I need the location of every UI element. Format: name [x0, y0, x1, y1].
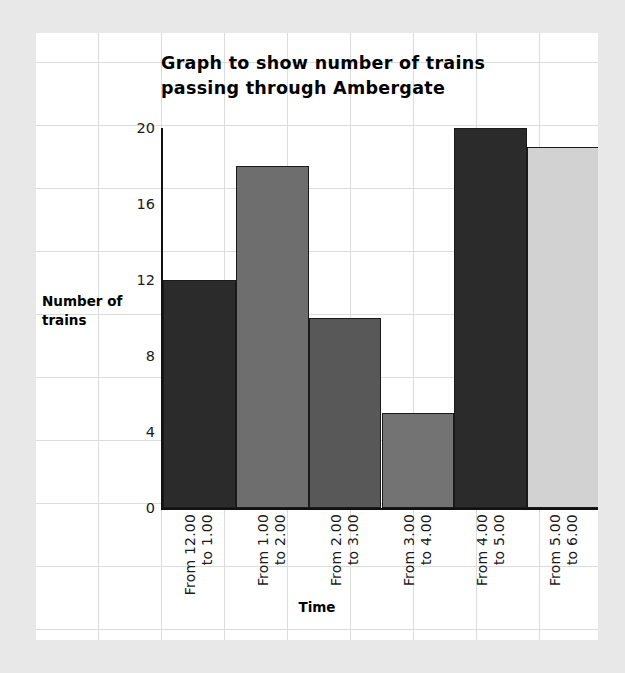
y-axis-label-line-2: trains: [42, 311, 152, 330]
x-tick-label-text: From 5.00 to 6.00: [547, 514, 581, 586]
x-axis-label: Time: [36, 599, 598, 615]
graph-paper-sheet: Graph to show number of trains passing t…: [36, 33, 598, 640]
x-tick-label-text: From 1.00 to 2.00: [255, 514, 289, 586]
x-tick-label: From 1.00 to 2.00: [236, 514, 309, 639]
y-tick-label: 0: [146, 500, 155, 516]
x-tick-label-text: From 2.00 to 3.00: [328, 514, 362, 586]
chart-title-line-1: Graph to show number of trains: [161, 51, 581, 76]
y-tick-label: 20: [137, 120, 155, 136]
x-tick-label: From 3.00 to 4.00: [382, 514, 455, 639]
x-tick-label-text: From 3.00 to 4.00: [401, 514, 435, 586]
bar: [309, 318, 382, 508]
y-axis-label: Number of trains: [42, 292, 152, 330]
bar-series: [163, 128, 598, 508]
bar: [527, 147, 598, 508]
y-axis-label-line-1: Number of: [42, 292, 152, 311]
x-axis-line: [161, 508, 598, 510]
chart-title-line-2: passing through Ambergate: [161, 76, 581, 101]
x-tick-label: From 4.00 to 5.00: [454, 514, 527, 639]
bar: [236, 166, 309, 508]
y-tick-label: 12: [137, 272, 155, 288]
x-tick-label-text: From 12.00 to 1.00: [182, 514, 216, 595]
x-tick-label: From 5.00 to 6.00: [527, 514, 598, 639]
x-tick-label: From 2.00 to 3.00: [309, 514, 382, 639]
y-tick-label: 16: [137, 196, 155, 212]
plot-area: 048121620 From 12.00 to 1.00From 1.00 to…: [161, 128, 598, 508]
bar: [454, 128, 527, 508]
bar: [163, 280, 236, 508]
chart-title: Graph to show number of trains passing t…: [161, 51, 581, 101]
x-tick-label: From 12.00 to 1.00: [163, 514, 236, 639]
y-tick-label: 8: [146, 348, 155, 364]
x-tick-label-text: From 4.00 to 5.00: [474, 514, 508, 586]
y-tick-label: 4: [146, 424, 155, 440]
bar: [382, 413, 455, 508]
